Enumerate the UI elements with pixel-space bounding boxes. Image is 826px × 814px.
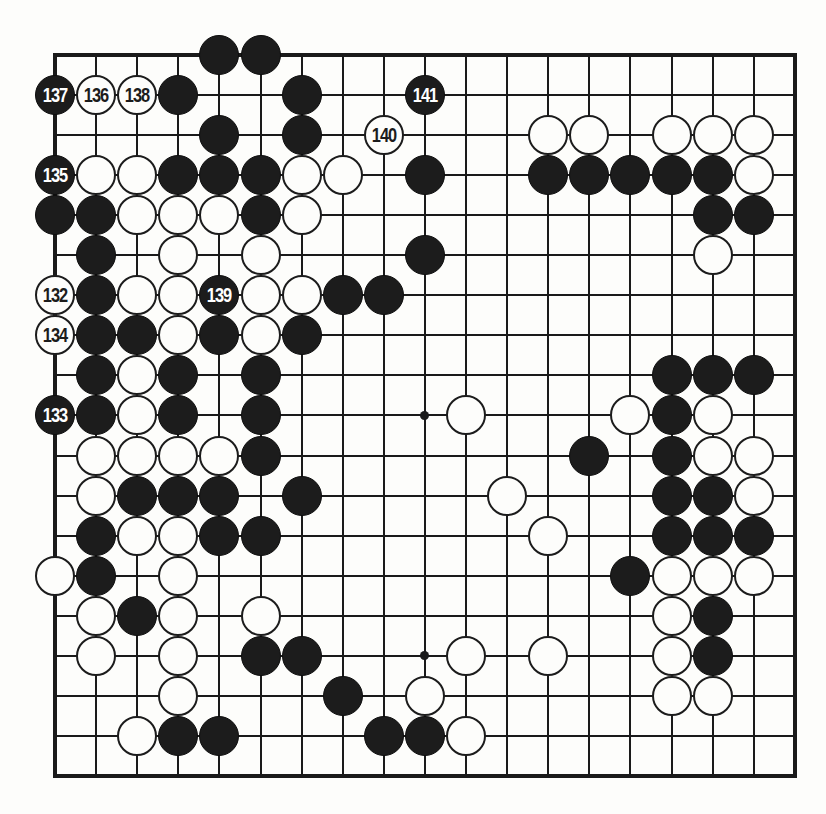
stone-black[interactable]	[241, 195, 281, 235]
stone-white[interactable]	[693, 115, 733, 155]
stone-black[interactable]	[693, 636, 733, 676]
stone-white[interactable]	[158, 436, 198, 476]
stone-white[interactable]	[158, 676, 198, 716]
stone-black[interactable]	[405, 235, 445, 275]
stone-white[interactable]	[76, 436, 116, 476]
stone-black[interactable]	[199, 155, 239, 195]
numbered-stone-140[interactable]: 140	[364, 115, 404, 155]
stone-black[interactable]	[241, 155, 281, 195]
stone-black[interactable]	[158, 395, 198, 435]
stone-black[interactable]	[405, 716, 445, 756]
numbered-stone-134[interactable]: 134	[35, 315, 75, 355]
numbered-stone-137[interactable]: 137	[35, 75, 75, 115]
stone-white[interactable]	[158, 636, 198, 676]
stone-black[interactable]	[117, 476, 157, 516]
stone-black[interactable]	[76, 235, 116, 275]
stone-black[interactable]	[241, 636, 281, 676]
stone-black[interactable]	[76, 315, 116, 355]
stone-white[interactable]	[76, 596, 116, 636]
stone-white[interactable]	[693, 235, 733, 275]
stone-white[interactable]	[199, 436, 239, 476]
stone-black[interactable]	[610, 155, 650, 195]
stone-white[interactable]	[528, 115, 568, 155]
stone-black[interactable]	[158, 476, 198, 516]
stone-black[interactable]	[652, 516, 692, 556]
stone-white[interactable]	[241, 315, 281, 355]
stone-black[interactable]	[693, 195, 733, 235]
stone-white[interactable]	[282, 275, 322, 315]
stone-white[interactable]	[199, 195, 239, 235]
stone-black[interactable]	[569, 436, 609, 476]
stone-white[interactable]	[652, 115, 692, 155]
stone-black[interactable]	[76, 195, 116, 235]
stone-black[interactable]	[652, 395, 692, 435]
stone-white[interactable]	[117, 155, 157, 195]
stone-black[interactable]	[76, 516, 116, 556]
stone-black[interactable]	[76, 395, 116, 435]
stone-white[interactable]	[158, 195, 198, 235]
stone-white[interactable]	[610, 395, 650, 435]
stone-white[interactable]	[652, 636, 692, 676]
stone-black[interactable]	[158, 716, 198, 756]
stone-black[interactable]	[693, 155, 733, 195]
stone-black[interactable]	[241, 516, 281, 556]
stone-black[interactable]	[528, 155, 568, 195]
stone-black[interactable]	[199, 716, 239, 756]
stone-black[interactable]	[652, 155, 692, 195]
stone-white[interactable]	[76, 476, 116, 516]
stone-white[interactable]	[76, 636, 116, 676]
stone-white[interactable]	[158, 275, 198, 315]
stone-black[interactable]	[693, 596, 733, 636]
stone-white[interactable]	[158, 235, 198, 275]
stone-white[interactable]	[117, 716, 157, 756]
stone-black[interactable]	[76, 556, 116, 596]
stone-black[interactable]	[693, 516, 733, 556]
numbered-stone-141[interactable]: 141	[405, 75, 445, 115]
stone-white[interactable]	[158, 556, 198, 596]
stone-white[interactable]	[734, 436, 774, 476]
stone-black[interactable]	[282, 636, 322, 676]
stone-white[interactable]	[282, 195, 322, 235]
numbered-stone-136[interactable]: 136	[76, 75, 116, 115]
stone-white[interactable]	[652, 556, 692, 596]
stone-black[interactable]	[405, 155, 445, 195]
stone-black[interactable]	[652, 355, 692, 395]
stone-white[interactable]	[693, 676, 733, 716]
numbered-stone-133[interactable]: 133	[35, 395, 75, 435]
numbered-stone-132[interactable]: 132	[35, 275, 75, 315]
stone-black[interactable]	[282, 75, 322, 115]
stone-white[interactable]	[693, 436, 733, 476]
stone-black[interactable]	[282, 476, 322, 516]
stone-black[interactable]	[364, 716, 404, 756]
stone-white[interactable]	[158, 596, 198, 636]
stone-white[interactable]	[693, 395, 733, 435]
stone-black[interactable]	[652, 476, 692, 516]
stone-black[interactable]	[282, 315, 322, 355]
stone-white[interactable]	[117, 395, 157, 435]
stone-black[interactable]	[76, 355, 116, 395]
stone-black[interactable]	[610, 556, 650, 596]
stone-white[interactable]	[282, 155, 322, 195]
stone-black[interactable]	[158, 355, 198, 395]
stone-black[interactable]	[241, 355, 281, 395]
stone-white[interactable]	[158, 315, 198, 355]
stone-black[interactable]	[199, 476, 239, 516]
stone-white[interactable]	[528, 516, 568, 556]
stone-white[interactable]	[241, 275, 281, 315]
stone-white[interactable]	[652, 596, 692, 636]
numbered-stone-135[interactable]: 135	[35, 155, 75, 195]
stone-black[interactable]	[652, 436, 692, 476]
stone-white[interactable]	[117, 195, 157, 235]
stone-black[interactable]	[282, 115, 322, 155]
stone-white[interactable]	[117, 355, 157, 395]
go-board[interactable]: 137136138141140135132139134133	[0, 0, 826, 814]
stone-white[interactable]	[35, 556, 75, 596]
stone-white[interactable]	[158, 516, 198, 556]
stone-white[interactable]	[446, 395, 486, 435]
stone-black[interactable]	[364, 275, 404, 315]
stone-black[interactable]	[117, 315, 157, 355]
stone-black[interactable]	[35, 195, 75, 235]
stone-black[interactable]	[76, 275, 116, 315]
stone-black[interactable]	[199, 516, 239, 556]
stone-black[interactable]	[241, 35, 281, 75]
